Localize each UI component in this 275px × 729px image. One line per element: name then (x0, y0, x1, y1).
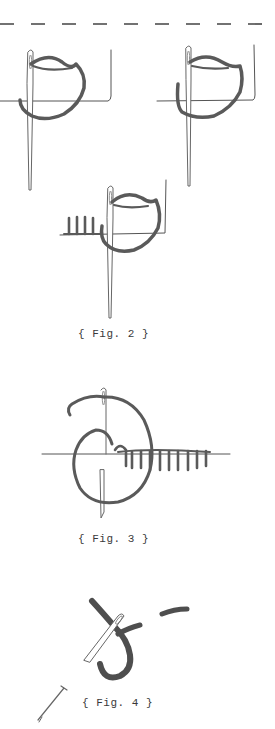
fig2-caption: { Fig. 2 } (78, 328, 149, 340)
fig2-panel-1-illustration (0, 50, 111, 190)
fig2-panel-2-illustration (157, 45, 255, 186)
fig2-panel-3-illustration (60, 180, 166, 318)
document-page: { Fig. 2 } { Fig. 3 } { Fig. 4 } (0, 0, 275, 729)
fig3-caption: { Fig. 3 } (78, 533, 149, 545)
illustration-canvas (0, 0, 275, 729)
fig3-illustration (42, 388, 230, 518)
fig4-caption: { Fig. 4 } (82, 697, 153, 709)
